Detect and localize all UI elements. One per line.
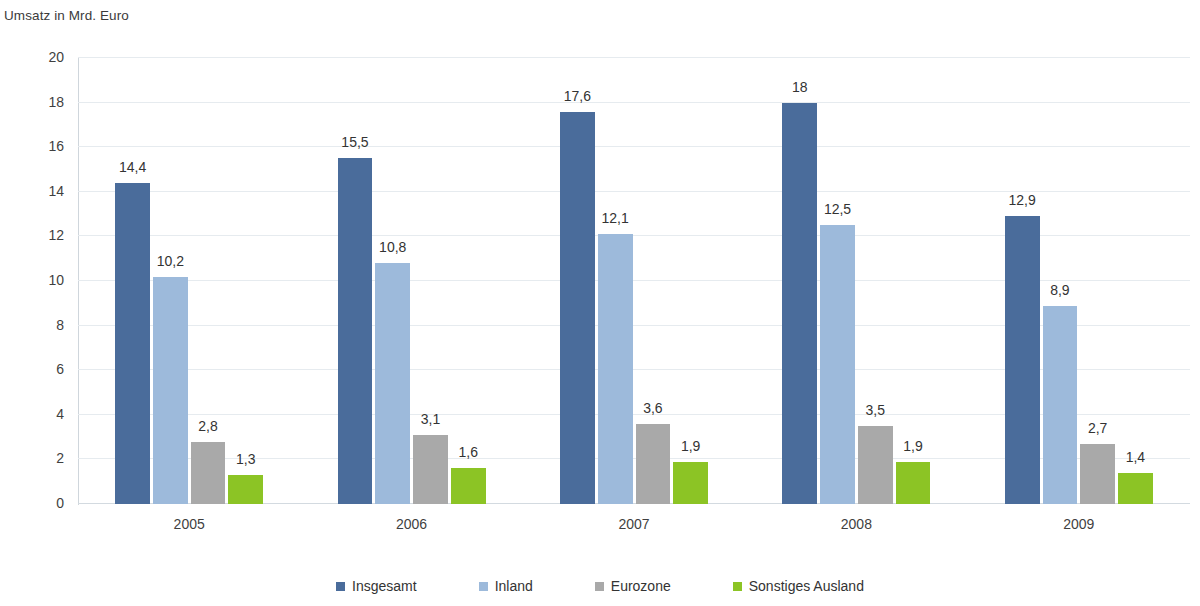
bar-slot: 3,1 [413, 58, 448, 504]
bar-group: 14,410,22,81,3 [115, 58, 263, 504]
bar-slot: 1,4 [1118, 58, 1153, 504]
legend-item-insgesamt[interactable]: Insgesamt [336, 578, 417, 594]
bar-slot: 2,8 [191, 58, 226, 504]
bar-group: 17,612,13,61,9 [560, 58, 708, 504]
bar[interactable] [1080, 444, 1115, 504]
y-axis-tick-label: 12 [22, 227, 64, 243]
y-axis-tick-label: 18 [22, 94, 64, 110]
bar-value-label: 17,6 [564, 89, 591, 103]
bar-slot: 12,1 [598, 58, 633, 504]
bar-slot: 17,6 [560, 58, 595, 504]
bar[interactable] [375, 263, 410, 504]
bar-value-label: 2,8 [198, 419, 217, 433]
bar[interactable] [820, 225, 855, 504]
bar-value-label: 1,4 [1126, 450, 1145, 464]
bar-value-label: 10,2 [157, 254, 184, 268]
y-axis-tick-label: 2 [22, 450, 64, 466]
y-axis-tick-label: 14 [22, 183, 64, 199]
y-axis-tick-label: 6 [22, 361, 64, 377]
legend-item-eurozone[interactable]: Eurozone [595, 578, 671, 594]
bar-value-label: 3,1 [421, 412, 440, 426]
bar-value-label: 3,5 [866, 403, 885, 417]
bar-value-label: 2,7 [1088, 421, 1107, 435]
bar[interactable] [1005, 216, 1040, 504]
y-axis-tick-label: 10 [22, 272, 64, 288]
bar-value-label: 12,9 [1009, 193, 1036, 207]
plot-area: 14,410,22,81,315,510,83,11,617,612,13,61… [78, 58, 1190, 504]
bar-slot: 18 [782, 58, 817, 504]
bar-slot: 3,5 [858, 58, 893, 504]
x-axis-tick-label: 2008 [745, 516, 967, 532]
bar[interactable] [598, 234, 633, 504]
bar-value-label: 1,3 [236, 452, 255, 466]
bar[interactable] [228, 475, 263, 504]
bar[interactable] [153, 277, 188, 504]
bar-group-bars: 14,410,22,81,3 [115, 58, 263, 504]
bar-slot: 3,6 [636, 58, 671, 504]
bar-slot: 14,4 [115, 58, 150, 504]
legend-swatch-icon [733, 582, 742, 591]
y-axis-tick-label: 16 [22, 138, 64, 154]
legend-item-label: Eurozone [611, 578, 671, 594]
bar-group: 15,510,83,11,6 [338, 58, 486, 504]
bar-group-bars: 15,510,83,11,6 [338, 58, 486, 504]
bar[interactable] [636, 424, 671, 504]
bar-slot: 2,7 [1080, 58, 1115, 504]
chart-legend: InsgesamtInlandEurozoneSonstiges Ausland [0, 578, 1200, 594]
y-axis-tick-label: 4 [22, 406, 64, 422]
bar-value-label: 1,6 [458, 445, 477, 459]
bar-slot: 1,3 [228, 58, 263, 504]
bar-slot: 12,9 [1005, 58, 1040, 504]
x-axis-tick-label: 2006 [300, 516, 522, 532]
bar[interactable] [115, 183, 150, 504]
bar-value-label: 18 [792, 80, 808, 94]
x-axis-tick-label: 2005 [78, 516, 300, 532]
bar[interactable] [782, 103, 817, 504]
legend-swatch-icon [479, 582, 488, 591]
bar-group: 12,98,92,71,4 [1005, 58, 1153, 504]
bar[interactable] [338, 158, 373, 504]
legend-swatch-icon [336, 582, 345, 591]
bar-value-label: 8,9 [1050, 283, 1069, 297]
bar-value-label: 3,6 [643, 401, 662, 415]
bar-value-label: 12,1 [602, 211, 629, 225]
bar[interactable] [896, 462, 931, 504]
bar-slot: 10,8 [375, 58, 410, 504]
bar[interactable] [560, 112, 595, 504]
bar-slot: 12,5 [820, 58, 855, 504]
bar-value-label: 15,5 [341, 135, 368, 149]
bar-value-label: 1,9 [903, 439, 922, 453]
bar-slot: 1,9 [896, 58, 931, 504]
bar-slot: 8,9 [1043, 58, 1078, 504]
legend-item-sonstiges-ausland[interactable]: Sonstiges Ausland [733, 578, 864, 594]
bar[interactable] [673, 462, 708, 504]
x-axis-tick-label: 2007 [523, 516, 745, 532]
bar-value-label: 12,5 [824, 202, 851, 216]
y-axis-tick-label: 20 [22, 49, 64, 65]
bar[interactable] [191, 442, 226, 504]
bar-group-bars: 1812,53,51,9 [782, 58, 930, 504]
bar-value-label: 1,9 [681, 439, 700, 453]
bar-slot: 1,6 [451, 58, 486, 504]
bar-slot: 1,9 [673, 58, 708, 504]
y-axis-tick-label: 8 [22, 317, 64, 333]
bar[interactable] [413, 435, 448, 504]
legend-item-label: Insgesamt [352, 578, 417, 594]
x-axis-tick-label: 2009 [968, 516, 1190, 532]
legend-item-inland[interactable]: Inland [479, 578, 533, 594]
bar[interactable] [858, 426, 893, 504]
bar-group: 1812,53,51,9 [782, 58, 930, 504]
legend-swatch-icon [595, 582, 604, 591]
bar-value-label: 10,8 [379, 240, 406, 254]
bar-group-bars: 17,612,13,61,9 [560, 58, 708, 504]
bar[interactable] [451, 468, 486, 504]
bar-slot: 10,2 [153, 58, 188, 504]
bar-value-label: 14,4 [119, 160, 146, 174]
bar[interactable] [1043, 306, 1078, 504]
legend-item-label: Inland [495, 578, 533, 594]
legend-item-label: Sonstiges Ausland [749, 578, 864, 594]
bar[interactable] [1118, 473, 1153, 504]
bar-chart: Umsatz in Mrd. Euro 14,410,22,81,315,510… [0, 0, 1200, 606]
y-axis-tick-label: 0 [22, 495, 64, 511]
bar-slot: 15,5 [338, 58, 373, 504]
